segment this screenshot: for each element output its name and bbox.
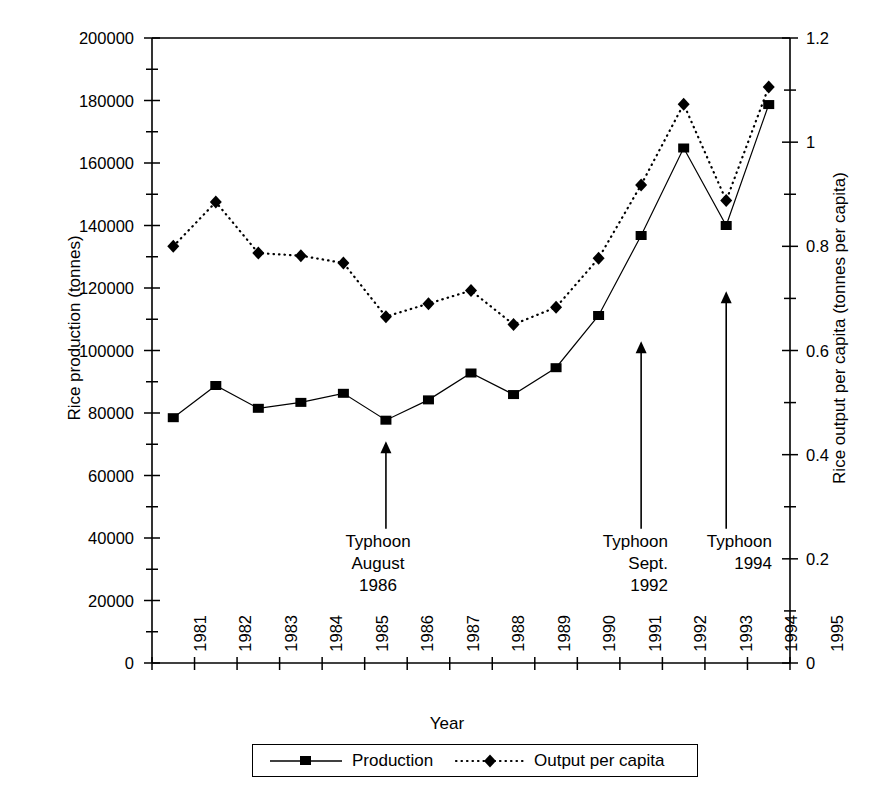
y-left-tick-label: 160000 bbox=[30, 154, 134, 173]
y-left-tick-label: 20000 bbox=[30, 591, 134, 610]
series-line-output-per-capita bbox=[173, 87, 768, 325]
y-left-tick-label: 120000 bbox=[30, 279, 134, 298]
data-point-square bbox=[593, 311, 604, 320]
legend-label-production: Production bbox=[352, 751, 433, 771]
data-point-square bbox=[636, 231, 647, 240]
data-point-square bbox=[508, 390, 519, 399]
arrow-head bbox=[636, 341, 647, 353]
x-tick-label: 1984 bbox=[327, 615, 346, 675]
data-point-square bbox=[338, 389, 349, 398]
x-tick-label: 1995 bbox=[828, 615, 847, 675]
data-point-square bbox=[380, 416, 391, 425]
data-point-diamond bbox=[635, 178, 647, 191]
y-axis-right-title: Rice output per capita (tonnes per capit… bbox=[830, 118, 850, 538]
data-point-diamond bbox=[593, 252, 605, 265]
x-tick-label: 1994 bbox=[782, 615, 801, 675]
data-point-diamond bbox=[337, 257, 349, 270]
y-left-tick-label: 80000 bbox=[30, 404, 134, 423]
annotation-line: Typhoon bbox=[298, 531, 458, 553]
data-point-diamond bbox=[763, 80, 775, 93]
y-right-tick-label: 0.2 bbox=[806, 549, 829, 568]
data-point-diamond bbox=[380, 310, 392, 323]
x-tick-label: 1982 bbox=[236, 615, 255, 675]
annotation-line: August bbox=[298, 553, 458, 575]
plot-canvas bbox=[0, 0, 894, 801]
y-left-tick-label: 200000 bbox=[30, 29, 134, 48]
series-line-production bbox=[173, 105, 768, 421]
data-point-diamond bbox=[422, 297, 434, 310]
x-tick-label: 1988 bbox=[509, 615, 528, 675]
data-point-square bbox=[763, 100, 774, 109]
y-right-tick-label: 0 bbox=[806, 654, 815, 673]
data-point-square bbox=[253, 404, 264, 413]
data-point-diamond bbox=[678, 98, 690, 111]
annotation-typhoon-1986: Typhoon August 1986 bbox=[298, 531, 458, 597]
axes-frame bbox=[144, 38, 798, 670]
x-tick-label: 1992 bbox=[691, 615, 710, 675]
data-point-square bbox=[168, 413, 179, 422]
y-right-tick-label: 0.8 bbox=[806, 237, 829, 256]
y-right-tick-label: 1 bbox=[806, 133, 815, 152]
arrow-head bbox=[721, 291, 732, 303]
rice-production-chart: Rice production (tonnes) Rice output per… bbox=[0, 0, 894, 801]
data-point-diamond bbox=[550, 301, 562, 314]
x-tick-label: 1983 bbox=[282, 615, 301, 675]
annotation-line: Typhoon bbox=[608, 531, 772, 553]
data-point-square bbox=[678, 144, 689, 153]
data-point-diamond bbox=[167, 240, 179, 253]
data-point-square bbox=[551, 363, 562, 372]
x-tick-label: 1990 bbox=[600, 615, 619, 675]
y-left-tick-label: 140000 bbox=[30, 216, 134, 235]
annotation-line: 1986 bbox=[298, 575, 458, 597]
y-left-tick-label: 100000 bbox=[30, 341, 134, 360]
data-point-square bbox=[210, 381, 221, 390]
data-point-square bbox=[295, 398, 306, 407]
y-right-tick-label: 0.6 bbox=[806, 341, 829, 360]
series-layer bbox=[167, 80, 774, 424]
annotation-typhoon-1994: Typhoon 1994 bbox=[608, 531, 772, 575]
data-point-diamond bbox=[465, 284, 477, 297]
x-tick-label: 1989 bbox=[555, 615, 574, 675]
data-point-square bbox=[721, 221, 732, 230]
data-point-diamond bbox=[720, 194, 732, 207]
data-point-diamond bbox=[508, 318, 520, 331]
data-point-diamond bbox=[295, 249, 307, 262]
data-point-diamond bbox=[252, 247, 264, 260]
y-right-tick-label: 1.2 bbox=[806, 29, 829, 48]
annotation-line: 1992 bbox=[508, 575, 668, 597]
arrow-head bbox=[380, 441, 391, 453]
legend-label-output-per-capita: Output per capita bbox=[534, 751, 664, 771]
data-point-diamond bbox=[210, 196, 222, 209]
y-left-tick-label: 40000 bbox=[30, 529, 134, 548]
x-tick-label: 1986 bbox=[418, 615, 437, 675]
x-tick-label: 1987 bbox=[464, 615, 483, 675]
y-right-tick-label: 0.4 bbox=[806, 445, 829, 464]
x-tick-label: 1985 bbox=[373, 615, 392, 675]
data-point-square bbox=[423, 395, 434, 404]
annotation-line: 1994 bbox=[608, 553, 772, 575]
data-point-square bbox=[466, 369, 477, 378]
y-left-tick-label: 0 bbox=[30, 654, 134, 673]
y-left-tick-label: 180000 bbox=[30, 91, 134, 110]
x-axis-title: Year bbox=[0, 714, 894, 734]
x-tick-label: 1993 bbox=[737, 615, 756, 675]
annotation-arrows bbox=[380, 291, 731, 529]
x-tick-label: 1981 bbox=[191, 615, 210, 675]
x-tick-label: 1991 bbox=[646, 615, 665, 675]
y-left-tick-label: 60000 bbox=[30, 466, 134, 485]
